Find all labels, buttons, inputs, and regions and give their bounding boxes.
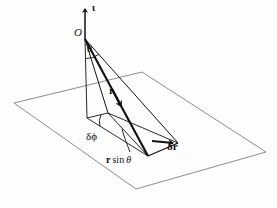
patch-edge-near-top xyxy=(87,113,108,118)
polar-axis xyxy=(85,9,87,118)
radius-vector-label: r xyxy=(109,85,114,96)
delta-r-label: δr xyxy=(167,141,178,152)
delta-phi-arc-group xyxy=(99,115,101,127)
delta-phi-label: δϕ xyxy=(86,131,97,142)
figure-drawing xyxy=(0,0,277,208)
polar-angle-label: θ xyxy=(87,44,92,54)
delta-phi-arc xyxy=(99,115,101,127)
axis-unit-vector-label: ι xyxy=(92,3,95,13)
r-sin-theta-sin: sin xyxy=(110,154,126,165)
r-sin-theta-theta: θ xyxy=(126,154,131,165)
origin-label: O xyxy=(74,27,82,38)
reference-plane xyxy=(14,72,266,189)
patch-edge-far-top xyxy=(108,113,178,143)
volume-element-patch xyxy=(87,113,178,156)
r-sin-theta-label: r sin θ xyxy=(106,155,131,165)
reference-plane-outline xyxy=(14,72,266,189)
figure-canvas: ι O θ r δϕ δr r sin θ xyxy=(0,0,277,208)
